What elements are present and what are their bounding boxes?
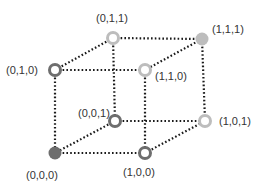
vertex-label-v000: (0,0,0) [26,169,58,181]
vertex-v110-ring-circle-icon [140,65,151,76]
cube-diagram: (0,1,0)(0,1,1)(1,1,1)(1,1,0)(0,0,1)(1,0,… [0,0,265,192]
edge-v011-v111 [113,38,202,39]
edge-v010-v011 [55,38,113,70]
vertex-label-v111: (1,1,1) [212,23,244,35]
vertex-label-v001: (0,0,1) [78,107,110,119]
vertex-label-v010: (0,1,0) [6,64,38,76]
vertex-v010-ring-circle-icon [50,65,61,76]
vertex-label-v110: (1,1,0) [155,70,187,82]
vertex-v011-ring-circle-icon [108,33,119,44]
vertex-v001-ring-circle-icon [110,116,121,127]
vertex-label-v011: (0,1,1) [96,12,128,24]
cube-edges [55,38,205,153]
edge-v011-v001 [113,38,115,121]
edge-v111-v110 [145,39,202,70]
cube-vertices [49,33,211,160]
vertex-v100-ring-circle-icon [140,148,151,159]
vertex-v101-ring-circle-icon [200,116,211,127]
vertex-v000-filled-circle-icon [49,147,62,160]
vertex-label-v101: (1,0,1) [219,115,251,127]
edge-v111-v101 [202,39,205,121]
vertex-v111-filled-circle-icon [196,33,209,46]
edge-v001-v000 [55,121,115,153]
vertex-label-v100: (1,0,0) [123,166,155,178]
edge-v100-v101 [145,121,205,153]
